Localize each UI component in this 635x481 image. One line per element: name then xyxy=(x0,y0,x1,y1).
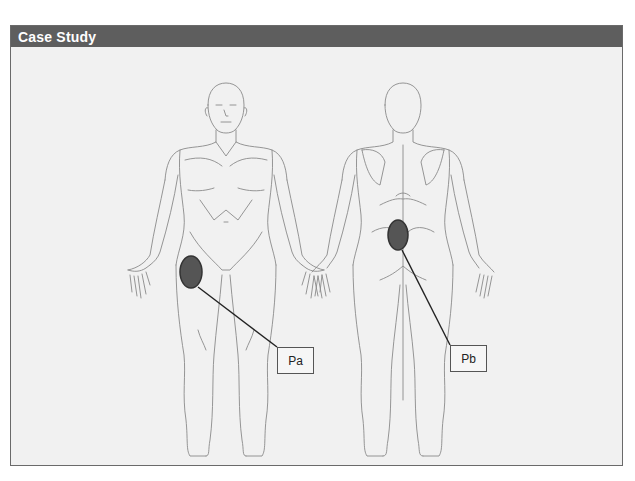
posterior-body-figure xyxy=(312,83,494,456)
body-diagram xyxy=(0,0,635,481)
label-pa: Pa xyxy=(277,347,314,374)
anterior-body-figure xyxy=(128,83,324,456)
label-pb: Pb xyxy=(450,345,487,372)
marker-pb[interactable] xyxy=(388,220,450,345)
